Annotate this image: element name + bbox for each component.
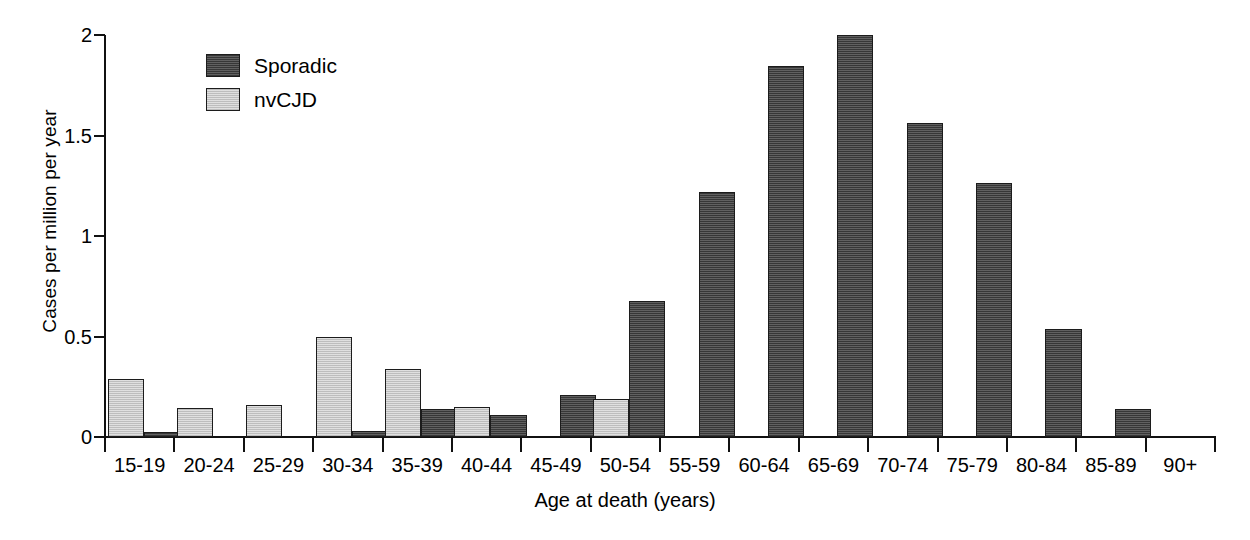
legend: SporadicnvCJD <box>206 48 337 116</box>
bar-nvcjd-30-34 <box>316 337 352 438</box>
bar-sporadic-35-39 <box>421 409 457 437</box>
legend-item-nvcjd: nvCJD <box>206 82 337 116</box>
x-axis-tick-label: 90+ <box>1130 455 1230 475</box>
y-axis-tick-label: 1.5 <box>40 126 92 146</box>
bar-sporadic-65-69 <box>837 35 873 437</box>
bar-sporadic-80-84 <box>1045 329 1081 437</box>
x-axis-title: Age at death (years) <box>0 489 1250 512</box>
y-axis-tick <box>94 336 105 338</box>
y-axis-tick-label: 0 <box>40 427 92 447</box>
x-axis-tick <box>173 437 175 452</box>
x-axis-tick <box>520 437 522 452</box>
y-axis-tick-label: 2 <box>40 25 92 45</box>
bar-nvcjd-25-29 <box>246 405 282 437</box>
legend-item-sporadic: Sporadic <box>206 48 337 82</box>
x-axis-tick <box>1214 437 1216 452</box>
x-axis-tick <box>104 437 106 452</box>
legend-swatch-sporadic-icon <box>206 54 240 77</box>
bar-sporadic-60-64 <box>768 66 804 437</box>
x-axis-tick <box>312 437 314 452</box>
y-axis-tick <box>94 34 105 36</box>
bar-sporadic-40-44 <box>490 415 526 437</box>
x-axis-tick <box>451 437 453 452</box>
x-axis-tick <box>659 437 661 452</box>
cjd-age-distribution-chart: Cases per million per year 00.511.52 15-… <box>0 0 1250 540</box>
bar-sporadic-50-54 <box>629 301 665 437</box>
bar-nvcjd-40-44 <box>454 407 490 437</box>
y-axis-tick-label: 1 <box>40 226 92 246</box>
x-axis-tick <box>590 437 592 452</box>
bar-sporadic-55-59 <box>699 192 735 437</box>
x-axis-tick <box>728 437 730 452</box>
x-axis-tick <box>937 437 939 452</box>
x-axis-tick <box>243 437 245 452</box>
legend-swatch-nvcjd-icon <box>206 88 240 111</box>
x-axis-tick <box>1145 437 1147 452</box>
x-axis-tick <box>1075 437 1077 452</box>
y-axis-tick-label: 0.5 <box>40 327 92 347</box>
bar-sporadic-85-89 <box>1115 409 1151 437</box>
bar-nvcjd-15-19 <box>108 379 144 437</box>
x-axis-tick <box>867 437 869 452</box>
x-axis-tick <box>798 437 800 452</box>
y-axis-tick <box>94 235 105 237</box>
bar-nvcjd-20-24 <box>177 408 213 437</box>
y-axis-tick <box>94 135 105 137</box>
legend-label: nvCJD <box>254 89 317 110</box>
x-axis-tick <box>382 437 384 452</box>
bar-sporadic-45-49 <box>560 395 596 437</box>
bar-sporadic-75-79 <box>976 183 1012 437</box>
legend-label: Sporadic <box>254 55 337 76</box>
x-axis-tick <box>1006 437 1008 452</box>
bar-nvcjd-50-54 <box>593 399 629 437</box>
bar-sporadic-70-74 <box>907 123 943 437</box>
bar-nvcjd-35-39 <box>385 369 421 437</box>
